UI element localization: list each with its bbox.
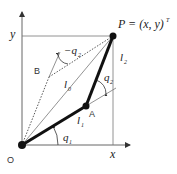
label-origin: O	[7, 155, 14, 165]
label-q2-sub: 2	[110, 79, 113, 85]
q1-arc	[53, 126, 58, 145]
neg-q2-arc	[58, 55, 68, 64]
label-l2-sub: 2	[124, 59, 127, 65]
label-y-axis: y	[9, 27, 16, 41]
label-l1: l	[77, 114, 80, 126]
label-l0-sub: 0	[68, 86, 71, 92]
joint-O	[18, 141, 26, 149]
label-neg-q2: −q	[64, 44, 77, 56]
label-q1-sub: 1	[69, 139, 72, 145]
end-effector-P	[110, 33, 117, 40]
label-A: A	[89, 109, 95, 119]
label-P-sup: T	[166, 17, 170, 23]
label-P: P = (x, y)	[117, 17, 164, 31]
alt-link1-dotted	[22, 77, 49, 145]
label-x-axis: x	[109, 147, 116, 161]
label-l0: l	[64, 78, 67, 90]
robot-arm-diagram: P = (x, y) T y x O A B l 0 l 1 l 2 q 1 q…	[0, 0, 177, 174]
label-l1-sub: 1	[81, 122, 84, 128]
label-neg-q2-sub: 2	[78, 52, 81, 58]
label-B: B	[34, 66, 40, 76]
label-l2: l	[120, 51, 123, 63]
